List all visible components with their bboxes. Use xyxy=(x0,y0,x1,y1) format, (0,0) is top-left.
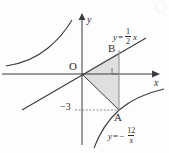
hyperbola-eq-operator: = xyxy=(113,132,118,141)
hyperbola-eq-denominator: x xyxy=(128,135,134,145)
hyperbola-equation-label: y = − 12 x xyxy=(108,127,137,145)
math-figure: O B A x y −3 y = 1 2 x y = − 12 x xyxy=(0,0,169,153)
y-tick-label-neg3: −3 xyxy=(60,102,71,112)
origin-label: O xyxy=(69,61,77,72)
line-eq-variable: x xyxy=(133,33,137,42)
y-axis-arrow xyxy=(79,13,86,20)
hyperbola-branch-upper-left xyxy=(6,20,72,66)
corner-watermark-icon xyxy=(155,2,166,13)
hyperbola-eq-sign: − xyxy=(119,132,124,141)
line-eq-denominator: 2 xyxy=(125,36,131,46)
line-eq-numerator: 1 xyxy=(125,28,131,37)
line-eq-fraction: 1 2 xyxy=(125,28,131,46)
line-eq-operator: = xyxy=(118,33,123,42)
graph-canvas xyxy=(0,0,169,153)
hyperbola-eq-numerator: 12 xyxy=(126,127,136,136)
point-a-label: A xyxy=(114,112,122,123)
line-eq-lhs: y xyxy=(113,33,117,42)
line-equation-label: y = 1 2 x xyxy=(113,28,137,46)
shaded-triangle xyxy=(82,52,119,110)
hyperbola-eq-fraction: 12 x xyxy=(126,127,136,145)
x-axis-label: x xyxy=(154,78,158,88)
hyperbola-eq-lhs: y xyxy=(108,132,112,141)
y-axis-label: y xyxy=(87,15,91,25)
